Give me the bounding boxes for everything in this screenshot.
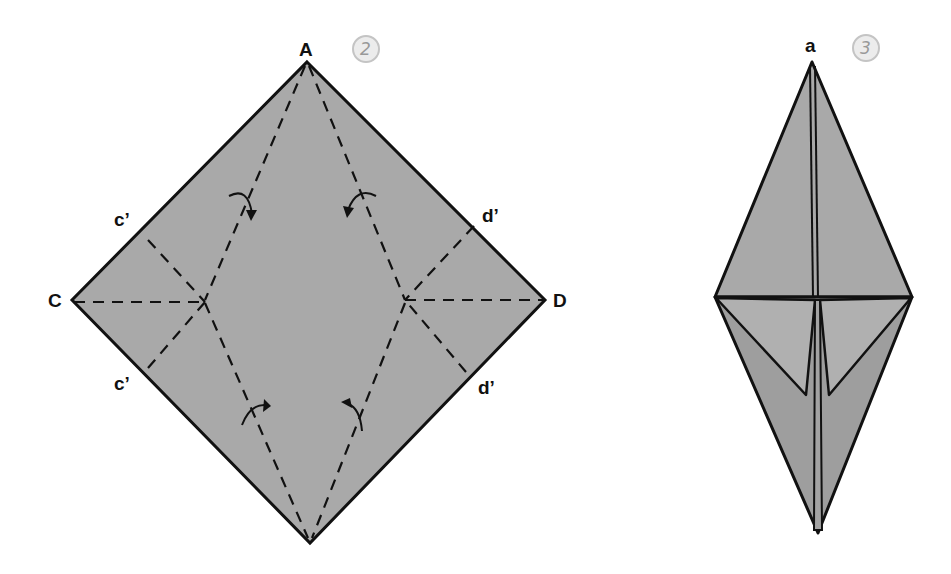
label-d-prime-lower: d’ bbox=[478, 377, 495, 398]
label-A: A bbox=[299, 39, 313, 60]
label-d-prime-upper: d’ bbox=[482, 205, 499, 226]
label-c-prime-upper: c’ bbox=[114, 209, 130, 230]
center-crease bbox=[814, 300, 822, 530]
label-a: a bbox=[805, 35, 816, 56]
paper-diamond bbox=[72, 62, 545, 543]
step-badge-3: 3 bbox=[853, 35, 879, 61]
origami-diagram: A C D c’ c’ d’ d’ 2 a 3 bbox=[0, 0, 951, 574]
step-number: 2 bbox=[360, 39, 371, 59]
label-C: C bbox=[48, 290, 62, 311]
step-2-figure: A C D c’ c’ d’ d’ 2 bbox=[48, 36, 567, 543]
step-badge-2: 2 bbox=[353, 36, 379, 62]
label-D: D bbox=[553, 290, 567, 311]
step-3-figure: a 3 bbox=[715, 35, 912, 533]
label-c-prime-lower: c’ bbox=[114, 373, 130, 394]
step-number: 3 bbox=[860, 38, 871, 58]
